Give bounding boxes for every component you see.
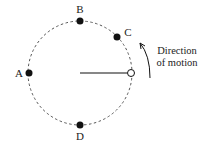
point-b-dot [77,18,84,25]
point-a-dot [26,70,33,77]
point-c-dot [114,34,121,41]
direction-arrow-icon [140,43,150,78]
point-b-label: B [76,3,83,15]
motion-caption-line1: Direction [157,45,197,56]
circular-motion-diagram: A B C D Direction of motion [0,0,205,150]
point-c-label: C [124,26,131,38]
point-d-dot [77,122,84,129]
moving-object-hollow-dot [128,70,135,77]
point-a-label: A [15,67,23,79]
point-d-label: D [76,130,84,142]
motion-caption-line2: of motion [156,57,198,68]
